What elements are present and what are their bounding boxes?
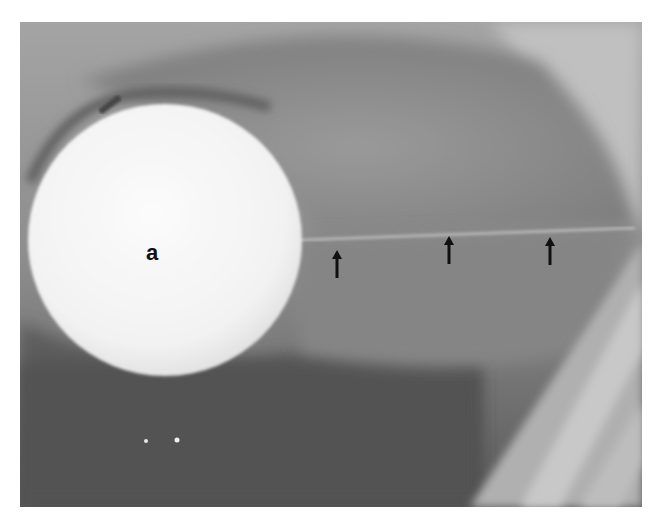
arrow-up-icon xyxy=(444,236,454,264)
arrow-up-icon xyxy=(332,250,342,278)
object-label-a: a xyxy=(146,242,158,264)
arrow-up-icon xyxy=(545,237,555,265)
